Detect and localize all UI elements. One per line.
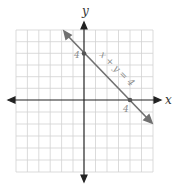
x-intercept-label: 4 — [122, 104, 129, 114]
equation-label: x + y = 4 — [98, 49, 137, 88]
y-axis-label: y — [81, 4, 89, 18]
y-axis — [81, 22, 87, 182]
y-intercept-label: 4 — [73, 50, 80, 60]
x-axis-left-arrow-icon — [8, 97, 15, 103]
x-intercept-point — [128, 98, 133, 103]
y-axis-down-arrow-icon — [81, 175, 87, 182]
x-axis-right-arrow-icon — [154, 97, 161, 103]
y-axis-up-arrow-icon — [81, 22, 87, 29]
x-axis-label: x — [165, 93, 172, 107]
y-intercept-point — [82, 51, 87, 56]
coordinate-plane: y x 4 4 x + y = 4 — [0, 0, 175, 186]
